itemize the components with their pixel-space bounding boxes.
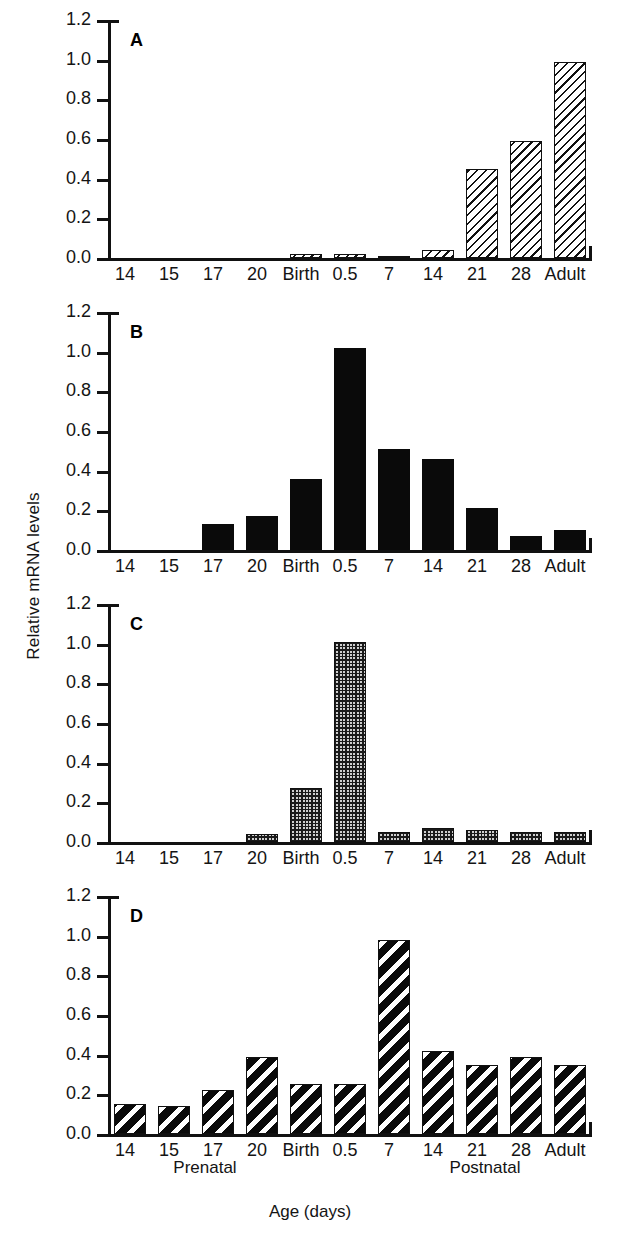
x-axis-line [108, 550, 592, 553]
bar [466, 830, 498, 842]
bar [554, 1065, 586, 1134]
bar [334, 1084, 366, 1134]
plot-area-d: 1.21.00.80.60.40.20.0D [108, 896, 592, 1136]
x-tick-label: Adult [538, 556, 592, 577]
bar [334, 348, 366, 550]
y-tick-label: 0.0 [45, 831, 91, 852]
y-tick: 0.6 [97, 139, 108, 142]
y-tick: 0.6 [97, 1015, 108, 1018]
y-tick: 0.2 [97, 510, 108, 513]
y-tick: 0.2 [97, 1094, 108, 1097]
y-tick-label: 0.2 [45, 791, 91, 812]
y-tick: 0.4 [97, 471, 108, 474]
y-tick: 1.2 [97, 312, 108, 315]
y-tick: 0.8 [97, 99, 108, 102]
y-tick: 0.2 [97, 802, 108, 805]
y-tick-label: 1.0 [45, 925, 91, 946]
x-tick-labels: 14151720Birth0.57142128Adult [108, 556, 592, 582]
y-tick-label: 1.2 [45, 593, 91, 614]
x-axis-title: Age (days) [160, 1202, 460, 1222]
plot-area-a: 1.21.00.80.60.40.20.0A [108, 20, 592, 260]
y-tick: 0.6 [97, 723, 108, 726]
y-tick-label: 0.6 [45, 1004, 91, 1025]
bar [246, 1057, 278, 1134]
y-tick-label: 1.2 [45, 301, 91, 322]
bar [378, 832, 410, 842]
bar [554, 530, 586, 550]
y-tick-label: 0.0 [45, 1123, 91, 1144]
bar [422, 459, 454, 550]
figure-root: Relative mRNA levels 1.21.00.80.60.40.20… [0, 0, 620, 1236]
bar-series-d [108, 896, 592, 1134]
y-tick-label: 0.2 [45, 207, 91, 228]
y-tick: 0.6 [97, 431, 108, 434]
bar [554, 832, 586, 842]
y-tick-label: 0.8 [45, 88, 91, 109]
plot-area-c: 1.21.00.80.60.40.20.0C [108, 604, 592, 844]
group-caption-prenatal: Prenatal [120, 1158, 290, 1178]
bar [510, 536, 542, 550]
y-tick: 0.0 [97, 550, 108, 553]
bar [246, 834, 278, 842]
bar [510, 832, 542, 842]
y-tick-label: 0.4 [45, 460, 91, 481]
bar [158, 1106, 190, 1134]
y-tick: 1.0 [97, 936, 108, 939]
plot-area-b: 1.21.00.80.60.40.20.0B [108, 312, 592, 552]
y-tick-label: 0.6 [45, 420, 91, 441]
y-tick: 0.4 [97, 763, 108, 766]
y-tick: 1.0 [97, 644, 108, 647]
y-tick: 1.2 [97, 604, 108, 607]
bar [466, 1065, 498, 1134]
bar [378, 940, 410, 1134]
y-tick-label: 1.2 [45, 885, 91, 906]
x-tick-labels: 14151720Birth0.57142128Adult [108, 264, 592, 290]
bar [554, 62, 586, 258]
y-tick-label: 1.0 [45, 633, 91, 654]
y-tick: 0.0 [97, 258, 108, 261]
y-tick: 0.8 [97, 683, 108, 686]
y-tick-label: 0.4 [45, 168, 91, 189]
y-tick: 1.0 [97, 352, 108, 355]
bar [290, 254, 322, 258]
x-tick-labels: 14151720Birth0.57142128Adult [108, 848, 592, 874]
bar [334, 642, 366, 842]
y-tick-label: 0.8 [45, 964, 91, 985]
y-tick: 0.4 [97, 179, 108, 182]
bar-series-b [108, 312, 592, 550]
bar [290, 788, 322, 842]
x-tick-label: Adult [538, 264, 592, 285]
y-tick-label: 0.0 [45, 247, 91, 268]
y-tick: 1.0 [97, 60, 108, 63]
y-tick-label: 1.0 [45, 49, 91, 70]
x-tick-label: Adult [538, 848, 592, 869]
y-tick-label: 0.2 [45, 499, 91, 520]
y-tick-label: 0.6 [45, 128, 91, 149]
bar [246, 516, 278, 550]
y-tick-label: 0.2 [45, 1083, 91, 1104]
bar [290, 479, 322, 550]
y-tick: 1.2 [97, 896, 108, 899]
y-tick-label: 0.0 [45, 539, 91, 560]
y-tick-label: 0.6 [45, 712, 91, 733]
y-tick-label: 0.8 [45, 672, 91, 693]
bar [510, 1057, 542, 1134]
bar [422, 828, 454, 842]
bar [422, 250, 454, 258]
bar [422, 1051, 454, 1134]
group-caption-postnatal: Postnatal [400, 1158, 570, 1178]
bar [290, 1084, 322, 1134]
bar [202, 1090, 234, 1134]
y-tick: 0.4 [97, 1055, 108, 1058]
bar [334, 254, 366, 258]
y-tick: 0.8 [97, 391, 108, 394]
y-tick: 0.8 [97, 975, 108, 978]
y-tick: 0.2 [97, 218, 108, 221]
bar [114, 1104, 146, 1134]
y-tick-label: 0.4 [45, 752, 91, 773]
x-axis-line [108, 1134, 592, 1137]
y-tick: 1.2 [97, 20, 108, 23]
bar-series-c [108, 604, 592, 842]
y-tick: 0.0 [97, 1134, 108, 1137]
bar [466, 508, 498, 550]
